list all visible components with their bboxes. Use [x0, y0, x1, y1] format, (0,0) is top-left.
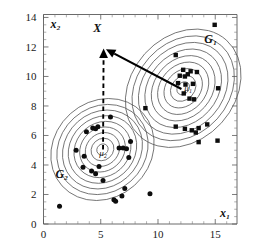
x-axis-name: x₁: [219, 206, 230, 220]
data-point-g1-20: [174, 124, 178, 128]
y-tick-label-8: 8: [31, 100, 37, 112]
x-tick-label-0: 0: [41, 228, 47, 240]
y-tick-label-2: 2: [31, 188, 37, 200]
y-tick-label-14: 14: [26, 11, 38, 23]
annotation-mu1: μ₁: [183, 83, 192, 93]
data-point-g1-3: [181, 68, 185, 72]
data-point-g1-0: [212, 23, 216, 27]
data-point-g1-16: [205, 122, 209, 126]
data-point-g2-7: [108, 115, 113, 120]
data-point-g1-5: [195, 70, 199, 74]
data-point-g2-6: [95, 124, 100, 129]
annotation-G2: G₂: [55, 167, 68, 181]
contour-g1-5: [129, 33, 237, 143]
data-point-g2-2: [82, 154, 87, 159]
tick-labels-layer: 05101502468101214: [26, 11, 222, 240]
data-point-g2-10: [93, 171, 98, 176]
data-point-g2-22: [147, 191, 152, 196]
data-point-g2-17: [126, 155, 131, 160]
data-point-g1-21: [194, 130, 198, 134]
annotation-mu2: μ₂: [98, 148, 107, 158]
data-point-g1-23: [196, 140, 200, 144]
data-point-g1-14: [192, 97, 196, 101]
data-point-g1-1: [174, 53, 178, 57]
data-point-g2-1: [74, 148, 79, 153]
y-tick-label-4: 4: [31, 159, 37, 171]
annotation-X: X: [92, 21, 102, 35]
data-point-g2-9: [89, 168, 94, 173]
data-point-g1-19: [183, 127, 187, 131]
data-point-g1-15: [216, 86, 220, 90]
x-tick-label-10: 10: [152, 228, 164, 240]
data-point-g2-8: [81, 165, 86, 170]
data-point-g2-0: [57, 204, 62, 209]
data-point-g2-12: [101, 178, 106, 183]
y-tick-label-10: 10: [26, 70, 38, 82]
data-point-g2-21: [128, 139, 133, 144]
contour-g1-6: [120, 24, 247, 152]
data-point-g1-22: [215, 138, 219, 142]
data-point-g1-18: [190, 128, 194, 132]
contour-g1-7: [111, 15, 253, 161]
data-point-g2-3: [84, 129, 89, 134]
x-tick-label-5: 5: [98, 228, 104, 240]
y-axis-name: x₂: [49, 17, 60, 31]
data-point-g1-2: [143, 106, 147, 110]
y-tick-label-6: 6: [31, 129, 37, 141]
contour-ellipses: [30, 6, 253, 222]
contour-g1-4: [138, 43, 228, 134]
plot-canvas: 05101502468101214 G₁G₂Xμ₁μ₂x₁x₂: [0, 0, 253, 250]
data-point-g2-11: [97, 164, 102, 169]
x-tick-label-15: 15: [210, 228, 222, 240]
arrow-line-mu2-to-X: [103, 58, 104, 150]
scatter-plot-figure: 05101502468101214 G₁G₂Xμ₁μ₂x₁x₂: [0, 0, 253, 250]
data-point-g2-14: [113, 199, 118, 204]
y-tick-label-0: 0: [31, 218, 37, 230]
data-point-g1-6: [178, 74, 182, 78]
data-point-g1-17: [196, 126, 200, 130]
data-point-g2-20: [124, 146, 129, 151]
y-axis-ticks: [44, 17, 238, 224]
data-point-g2-16: [122, 186, 127, 191]
data-point-g1-13: [187, 96, 191, 100]
y-tick-label-12: 12: [26, 41, 37, 53]
data-point-g1-9: [176, 81, 180, 85]
data-point-g2-15: [119, 193, 124, 198]
data-point-g1-8: [186, 72, 190, 76]
annotation-G1: G₁: [204, 32, 217, 46]
